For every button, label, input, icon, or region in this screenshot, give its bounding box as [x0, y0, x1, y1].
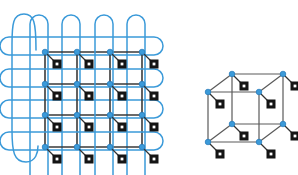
lattice-node — [280, 71, 286, 77]
tensor-square-center — [243, 135, 246, 138]
tensor-network-diagram — [0, 0, 298, 175]
lattice-node — [139, 81, 145, 87]
lattice-node — [205, 89, 211, 95]
lattice-node — [107, 112, 113, 118]
cube-bond — [208, 74, 232, 92]
lattice-node — [107, 81, 113, 87]
tensor-square-center — [153, 158, 156, 161]
lattice-node — [42, 49, 48, 55]
lattice-node — [107, 49, 113, 55]
lattice-node — [139, 144, 145, 150]
cube-tensors — [208, 74, 298, 159]
tensor-square-center — [88, 63, 91, 66]
lattice-node — [74, 49, 80, 55]
lattice-node — [229, 121, 235, 127]
tensor-square-center — [56, 95, 59, 98]
tensor-square-center — [121, 63, 124, 66]
tensor-square-center — [88, 126, 91, 129]
tensor-square-center — [121, 158, 124, 161]
cube-bond — [208, 124, 232, 142]
lattice-node — [139, 49, 145, 55]
lattice-node — [74, 112, 80, 118]
outer-wrap-loop — [12, 14, 38, 162]
lattice-node — [42, 112, 48, 118]
tensor-square-center — [270, 103, 273, 106]
tensor-square-center — [88, 158, 91, 161]
lattice-node — [256, 89, 262, 95]
lattice-node — [205, 139, 211, 145]
lattice-node — [256, 139, 262, 145]
lattice-node — [42, 81, 48, 87]
tensor-square-center — [294, 85, 297, 88]
lattice-node — [42, 144, 48, 150]
tensor-square-center — [153, 95, 156, 98]
tensor-square-center — [56, 158, 59, 161]
tensor-square-center — [88, 95, 91, 98]
lattice-node — [74, 81, 80, 87]
tensor-square-center — [219, 103, 222, 106]
lattice-node — [107, 144, 113, 150]
tensor-square-center — [121, 95, 124, 98]
lattice-node — [74, 144, 80, 150]
tensor-square-center — [153, 126, 156, 129]
cube-bond — [259, 124, 283, 142]
tensor-square-center — [56, 126, 59, 129]
tensor-square-center — [56, 63, 59, 66]
tensor-square-center — [121, 126, 124, 129]
tensor-square-center — [270, 153, 273, 156]
lattice-node — [280, 121, 286, 127]
figure-root — [0, 0, 298, 175]
cube-bond — [259, 74, 283, 92]
tensor-square-center — [153, 63, 156, 66]
lattice-node — [139, 112, 145, 118]
tensor-square-center — [294, 135, 297, 138]
tensor-square-center — [219, 153, 222, 156]
tensor-square-center — [243, 85, 246, 88]
lattice-node — [229, 71, 235, 77]
